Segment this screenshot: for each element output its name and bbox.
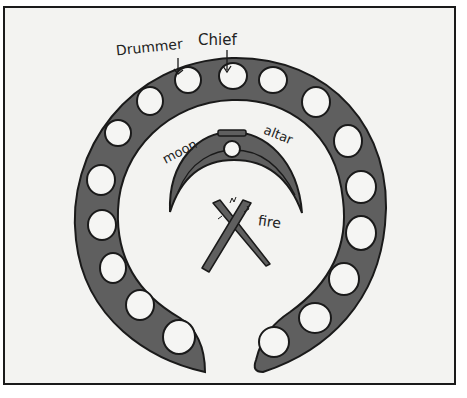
seat [126,290,154,320]
seat [329,263,359,295]
seat [302,87,330,117]
seat [137,87,163,115]
seat [88,210,116,240]
label-fire: fire [257,212,282,231]
ceremony-diagram: Drummer Chief moon altar fire [0,0,467,398]
seat [334,125,362,157]
drummer-pointer [174,58,183,74]
seat-drummer [175,67,201,93]
altar-circle [224,141,240,157]
seat [346,171,376,203]
seat [259,327,289,357]
label-chief: Chief [198,31,237,49]
seat [346,216,376,250]
altar-top [218,130,246,136]
seat [100,253,126,283]
seat [163,320,195,354]
seat [105,120,131,146]
seat [299,303,331,333]
label-drummer: Drummer [115,36,184,59]
seat [87,165,115,195]
seat [259,67,287,93]
